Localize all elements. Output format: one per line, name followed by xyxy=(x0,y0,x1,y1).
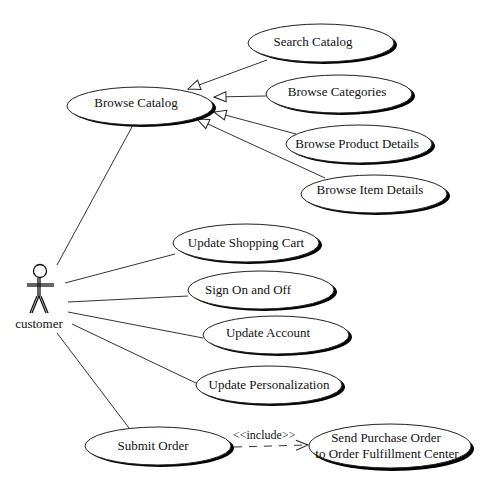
use-case-label-line1: Send Purchase Order xyxy=(331,430,441,445)
use-case-label: Sign On and Off xyxy=(205,282,292,297)
use-case-label: Submit Order xyxy=(117,438,189,453)
use-case-sign-on-and-off[interactable]: Sign On and Off xyxy=(188,271,337,311)
assoc-sign-on-and-off xyxy=(68,296,188,302)
use-case-update-account[interactable]: Update Account xyxy=(203,316,352,356)
use-case-label-line2: to Order Fulfillment Center xyxy=(315,446,459,461)
use-case-label: Update Shopping Cart xyxy=(188,235,305,250)
assoc-update-account xyxy=(68,312,203,338)
use-case-label: Update Personalization xyxy=(209,377,330,392)
gen-browse-product-details xyxy=(214,112,296,134)
stick-figure-icon xyxy=(27,265,54,314)
assoc-update-shopping-cart xyxy=(65,254,175,283)
use-case-label: Browse Catalog xyxy=(94,95,178,110)
actor-customer[interactable]: customer xyxy=(15,265,63,332)
actor-label: customer xyxy=(15,316,63,331)
use-case-label: Browse Item Details xyxy=(317,182,424,197)
use-case-browse-item-details[interactable]: Browse Item Details xyxy=(301,175,450,215)
gen-search-catalog xyxy=(188,60,267,89)
assoc-browse-catalog xyxy=(57,125,133,265)
use-case-update-shopping-cart[interactable]: Update Shopping Cart xyxy=(173,224,322,264)
include-arrow xyxy=(234,445,308,447)
use-case-diagram: <<include>> customer Browse Catalog Sear… xyxy=(0,0,489,490)
use-case-browse-catalog[interactable]: Browse Catalog xyxy=(67,87,216,127)
use-case-send-purchase-order[interactable]: Send Purchase Order to Order Fulfillment… xyxy=(309,424,474,471)
use-case-label: Browse Categories xyxy=(288,84,387,99)
association-lines xyxy=(57,125,203,428)
use-case-label: Browse Product Details xyxy=(295,136,418,151)
use-case-update-personalization[interactable]: Update Personalization xyxy=(196,366,345,406)
include-dependency: <<include>> xyxy=(233,428,308,447)
gen-browse-categories xyxy=(214,96,266,97)
use-case-search-catalog[interactable]: Search Catalog xyxy=(248,24,397,64)
use-case-submit-order[interactable]: Submit Order xyxy=(85,427,234,467)
use-case-browse-product-details[interactable]: Browse Product Details xyxy=(286,125,435,165)
use-case-label: Update Account xyxy=(226,325,311,340)
use-case-label: Search Catalog xyxy=(273,34,353,49)
assoc-submit-order xyxy=(57,333,129,428)
use-case-browse-categories[interactable]: Browse Categories xyxy=(266,75,415,115)
include-label: <<include>> xyxy=(233,428,296,442)
